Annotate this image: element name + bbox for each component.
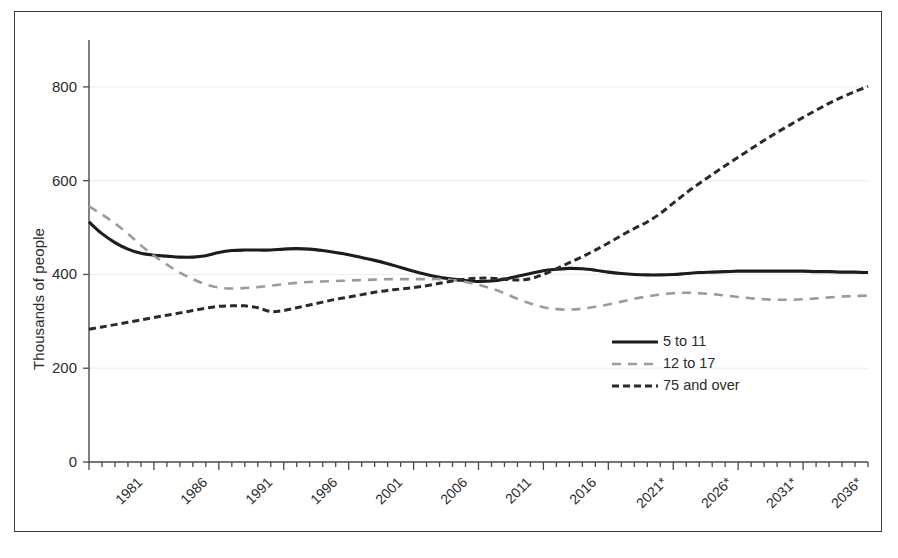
legend-label-2: 75 and over (663, 377, 740, 393)
legend-label-0: 5 to 11 (663, 333, 706, 349)
data-series (89, 86, 868, 329)
axis-ticks (83, 87, 868, 470)
chart-area: Thousands of people 0200400600800 198119… (0, 0, 898, 558)
axis-lines (89, 40, 868, 462)
legend-swatches (612, 342, 658, 386)
chart-plot (0, 0, 898, 558)
gridlines (89, 87, 868, 368)
series-line-1 (89, 206, 868, 309)
legend-label-1: 12 to 17 (663, 355, 715, 371)
series-line-2 (89, 86, 868, 329)
series-line-0 (89, 222, 868, 282)
